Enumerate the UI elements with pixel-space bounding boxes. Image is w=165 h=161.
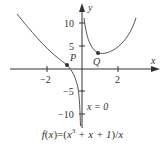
- y-tick-label: −5: [63, 86, 74, 97]
- point-q: [96, 51, 100, 55]
- y-tick-label: 5: [69, 41, 74, 52]
- x-tick-label: −2: [40, 74, 51, 85]
- caption-denominator: x: [118, 128, 123, 140]
- x-axis-arrow-icon: [151, 66, 160, 72]
- point-p: [65, 63, 69, 67]
- point-p-label: P: [69, 52, 76, 63]
- y-axis-arrow-icon: [79, 3, 85, 12]
- caption-rest: + x + 1: [75, 128, 111, 140]
- x-tick-label: 2: [115, 74, 120, 85]
- x-axis-label: x: [150, 55, 156, 66]
- asymptote-label: x = 0: [86, 101, 108, 112]
- y-tick-label: −10: [58, 109, 74, 120]
- function-caption: f(x)=(x3 + x + 1)/x: [0, 127, 165, 140]
- point-q-label: Q: [93, 56, 101, 67]
- y-tick-label: 10: [64, 18, 74, 29]
- y-axis-label: y: [87, 2, 93, 13]
- right-branch-curve: [84, 18, 136, 53]
